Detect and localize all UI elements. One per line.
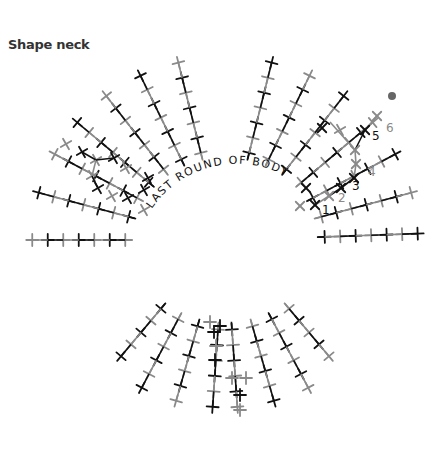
row-number-1: 1 <box>322 203 330 217</box>
end-marker-dot-icon <box>388 92 396 100</box>
stitch-cross-icon <box>61 141 71 147</box>
row-number-4: 4 <box>368 165 376 179</box>
row-number-2: 2 <box>338 191 346 205</box>
stitch-cross-icon <box>305 382 311 393</box>
stitch-cross-icon <box>107 193 117 199</box>
stitch-cross-icon <box>103 91 110 100</box>
stitch-cross-icon <box>139 187 149 193</box>
stitch-cross-icon <box>390 151 401 157</box>
row-number-5: 5 <box>372 129 380 143</box>
stitch-cross-icon <box>50 151 61 157</box>
stitch-cross-icon <box>212 401 213 413</box>
stitch-cross-icon <box>340 91 347 100</box>
row-number-6: 6 <box>386 121 394 135</box>
stitch-cross-icon <box>123 195 133 201</box>
crochet-chart: 123456 LAST ROUND OF BODY <box>0 0 446 452</box>
stitch-rays <box>26 57 423 413</box>
row-number-3: 3 <box>352 179 360 193</box>
last-round-of-body-label: LAST ROUND OF BODY <box>144 154 291 211</box>
stitch-cross-icon <box>139 382 145 393</box>
stitch-cross-icon <box>139 207 149 213</box>
chain-line <box>330 122 355 150</box>
stitch-cross-icon <box>237 401 238 413</box>
